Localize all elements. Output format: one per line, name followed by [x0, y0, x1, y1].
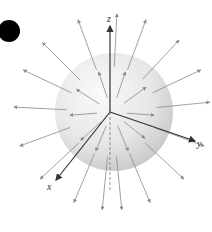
- black-dot: [0, 20, 20, 42]
- field-arrow: [43, 43, 80, 80]
- field-arrow: [40, 143, 79, 179]
- field-arrow: [143, 40, 179, 79]
- y-axis-label: y: [196, 138, 202, 149]
- z-axis-label: z: [106, 13, 111, 24]
- sphere-field-diagram: z y x: [0, 0, 212, 232]
- sphere: [55, 53, 173, 171]
- x-axis-label: x: [46, 181, 52, 192]
- diagram-canvas: z y x: [0, 0, 212, 232]
- field-arrow: [145, 143, 184, 179]
